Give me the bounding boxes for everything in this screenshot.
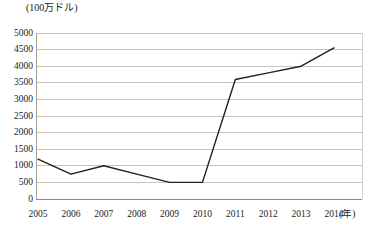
line-chart: (100万ドル) 0500100015002000250030003500400… bbox=[0, 0, 372, 229]
gridlines bbox=[36, 33, 362, 199]
series-polyline bbox=[38, 48, 334, 182]
plot-area bbox=[0, 0, 372, 229]
data-series-line bbox=[38, 48, 334, 182]
